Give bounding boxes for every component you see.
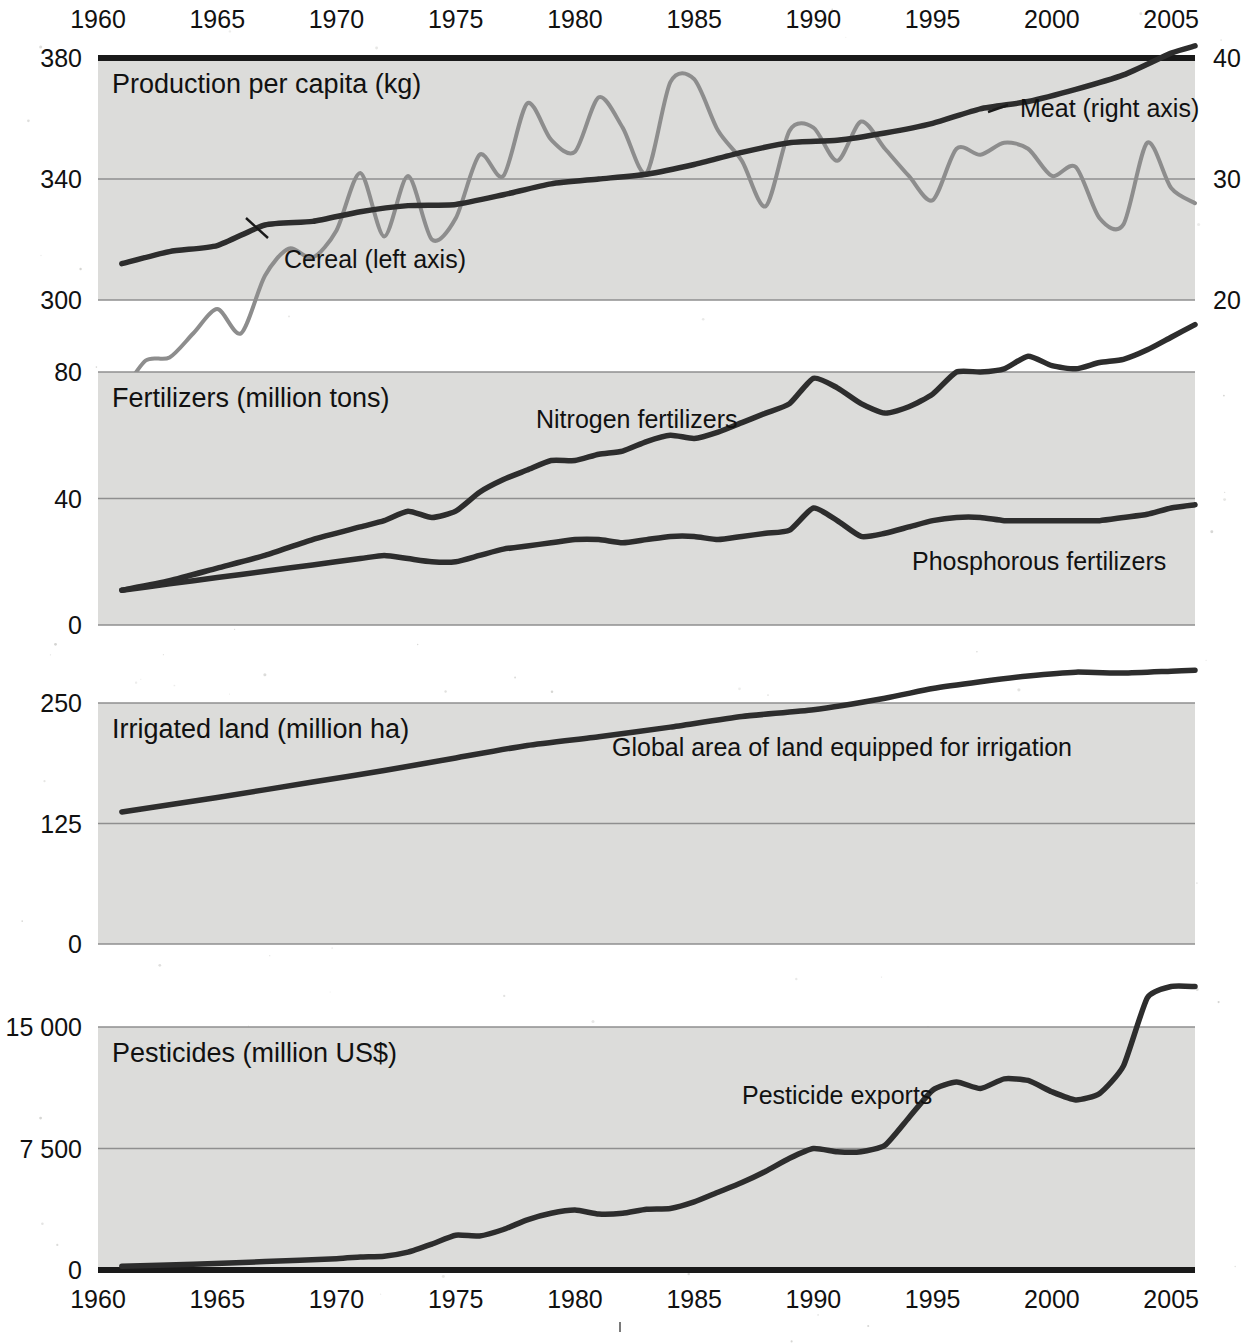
x-tick-top-1970: 1970 — [309, 5, 365, 33]
paper-speck — [380, 1294, 381, 1295]
paper-speck — [96, 366, 98, 368]
paper-speck — [1218, 1001, 1220, 1003]
panel1-title: Production per capita (kg) — [112, 69, 421, 99]
x-tick-top-1975: 1975 — [428, 5, 484, 33]
x-tick-bottom-1995: 1995 — [905, 1285, 961, 1313]
x-tick-bottom-1965: 1965 — [189, 1285, 245, 1313]
paper-speck — [1224, 492, 1225, 493]
paper-speck — [551, 691, 554, 694]
x-tick-top-1980: 1980 — [547, 5, 603, 33]
paper-speck — [1234, 1266, 1236, 1268]
paper-speck — [234, 629, 235, 630]
paper-speck — [21, 920, 23, 922]
panel4-y-tick-7500: 7 500 — [19, 1135, 82, 1163]
x-tick-bottom-2000: 2000 — [1024, 1285, 1080, 1313]
paper-speck — [263, 673, 266, 676]
paper-speck — [795, 978, 797, 980]
paper-speck — [135, 682, 137, 684]
paper-speck — [163, 654, 164, 655]
paper-speck — [174, 685, 176, 687]
paper-speck — [41, 1222, 44, 1225]
panel1-y-tick-left-380: 380 — [40, 44, 82, 72]
multi-panel-chart-figure: 1960196519701975198019851990199520002005… — [0, 0, 1242, 1343]
x-tick-bottom-1985: 1985 — [666, 1285, 722, 1313]
paper-speck — [417, 644, 418, 645]
chart-canvas: 1960196519701975198019851990199520002005… — [0, 0, 1242, 1343]
panel4-y-tick-0: 0 — [68, 1256, 82, 1284]
panel-production-per-capita: 300340380203040Production per capita (kg… — [40, 44, 1241, 394]
paper-speck — [1196, 882, 1198, 884]
x-tick-bottom-1980: 1980 — [547, 1285, 603, 1313]
panel4-y-tick-15000: 15 000 — [6, 1013, 82, 1041]
paper-speck — [867, 1325, 869, 1327]
x-axis-bottom: 1960196519701975198019851990199520002005 — [70, 1285, 1199, 1332]
paper-speck — [50, 654, 51, 655]
x-tick-top-1960: 1960 — [70, 5, 126, 33]
panel-irrigated-land: 0125250Irrigated land (million ha)Global… — [40, 670, 1195, 958]
x-tick-top-2000: 2000 — [1024, 5, 1080, 33]
paper-speck — [27, 119, 30, 122]
panel4-title: Pesticides (million US$) — [112, 1038, 397, 1068]
panel-pesticides: 07 50015 000Pesticides (million US$)Pest… — [6, 986, 1195, 1284]
paper-speck — [845, 37, 846, 38]
paper-speck — [738, 687, 741, 690]
panel3-y-tick-125: 125 — [40, 810, 82, 838]
paper-speck — [817, 1314, 818, 1315]
paper-speck — [442, 1275, 445, 1278]
panel2-y-tick-0: 0 — [68, 611, 82, 639]
pesticide-label: Pesticide exports — [742, 1081, 932, 1109]
paper-speck — [591, 1020, 594, 1023]
paper-speck — [56, 1244, 58, 1246]
panel-fertilizers: 04080Fertilizers (million tons)Nitrogen … — [54, 325, 1195, 639]
x-tick-top-1990: 1990 — [786, 5, 842, 33]
x-axis-top: 1960196519701975198019851990199520002005 — [70, 5, 1199, 33]
x-tick-top-2005: 2005 — [1143, 5, 1199, 33]
paper-speck — [514, 677, 516, 679]
paper-speck — [976, 651, 978, 653]
paper-speck — [229, 694, 230, 695]
nitrogen-label: Nitrogen fertilizers — [536, 405, 737, 433]
paper-speck — [503, 995, 505, 997]
paper-speck — [375, 47, 378, 50]
paper-speck — [158, 964, 161, 967]
paper-speck — [702, 318, 705, 321]
paper-speck — [1197, 223, 1200, 226]
panel1-y-tick-left-340: 340 — [40, 165, 82, 193]
x-tick-bottom-1975: 1975 — [428, 1285, 484, 1313]
panel3-title: Irrigated land (million ha) — [112, 714, 409, 744]
paper-speck — [43, 780, 45, 782]
irrigation-label: Global area of land equipped for irrigat… — [612, 733, 1072, 761]
paper-speck — [1139, 12, 1142, 15]
x-tick-bottom-1970: 1970 — [309, 1285, 365, 1313]
x-tick-top-1965: 1965 — [189, 5, 245, 33]
cereal-label: Cereal (left axis) — [284, 245, 466, 273]
x-tick-bottom-2005: 2005 — [1143, 1285, 1199, 1313]
paper-speck — [687, 1273, 689, 1275]
paper-speck — [1223, 498, 1226, 501]
paper-speck — [881, 976, 882, 977]
paper-speck — [330, 991, 331, 992]
panel3-y-tick-0: 0 — [68, 930, 82, 958]
panel2-y-tick-40: 40 — [54, 485, 82, 513]
paper-speck — [332, 947, 333, 948]
paper-speck — [1210, 530, 1213, 533]
panel2-y-tick-80: 80 — [54, 358, 82, 386]
paper-speck — [1206, 660, 1207, 661]
paper-speck — [39, 1117, 42, 1120]
meat-label: Meat (right axis) — [1020, 94, 1199, 122]
paper-speck — [791, 1340, 793, 1342]
paper-speck — [54, 643, 57, 646]
x-tick-top-1985: 1985 — [666, 5, 722, 33]
paper-speck — [1220, 39, 1222, 41]
x-tick-top-1995: 1995 — [905, 5, 961, 33]
paper-speck — [767, 694, 769, 696]
panel3-y-tick-250: 250 — [40, 689, 82, 717]
x-tick-bottom-1960: 1960 — [70, 1285, 126, 1313]
paper-speck — [288, 316, 290, 318]
paper-speck — [40, 255, 42, 257]
paper-speck — [1017, 688, 1020, 691]
paper-speck — [1223, 395, 1225, 397]
x-tick-bottom-1990: 1990 — [786, 1285, 842, 1313]
paper-speck — [269, 955, 270, 956]
panel1-y-tick-right-30: 30 — [1213, 165, 1241, 193]
